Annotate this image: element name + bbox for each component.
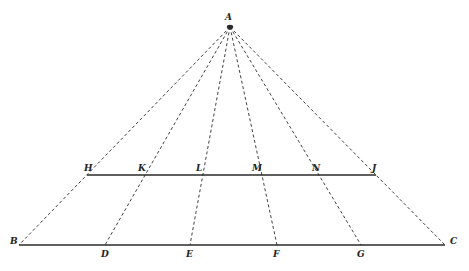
ray-a-f — [230, 27, 277, 245]
ray-a-c — [230, 27, 445, 245]
ray-a-e — [190, 27, 230, 245]
label-g: G — [357, 249, 365, 259]
label-b: B — [9, 236, 18, 246]
label-a: A — [224, 12, 232, 22]
label-k: K — [137, 163, 147, 173]
label-l: L — [195, 163, 202, 173]
apex-mark — [227, 25, 233, 29]
label-h: H — [83, 163, 93, 173]
geometry-figure: AHKLMNJBDEFGC — [0, 0, 469, 271]
solid-lines — [19, 175, 445, 245]
label-f: F — [272, 249, 280, 259]
apex-point — [227, 25, 233, 29]
label-c: C — [450, 236, 458, 246]
label-e: E — [185, 249, 193, 259]
label-n: N — [311, 163, 321, 173]
label-j: J — [370, 163, 377, 173]
dashed-rays — [19, 27, 445, 245]
ray-a-g — [230, 27, 361, 245]
ray-a-b — [19, 27, 230, 245]
label-d: D — [100, 249, 109, 259]
ray-a-d — [105, 27, 230, 245]
point-labels: AHKLMNJBDEFGC — [9, 12, 458, 259]
label-m: M — [251, 163, 263, 173]
